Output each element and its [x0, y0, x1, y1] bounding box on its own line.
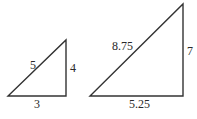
small-height-label: 4	[70, 61, 76, 75]
large-height-label: 7	[187, 44, 193, 58]
large-triangle-shape	[90, 4, 183, 96]
small-triangle-shape	[8, 40, 66, 96]
large-triangle: 8.75 7 5.25	[90, 4, 193, 111]
small-hypotenuse-label: 5	[30, 58, 36, 72]
small-triangle: 5 4 3	[8, 40, 76, 111]
large-base-label: 5.25	[129, 97, 150, 111]
small-base-label: 3	[34, 97, 40, 111]
large-hypotenuse-label: 8.75	[112, 39, 133, 53]
similar-triangles-diagram: 5 4 3 8.75 7 5.25	[0, 0, 197, 119]
